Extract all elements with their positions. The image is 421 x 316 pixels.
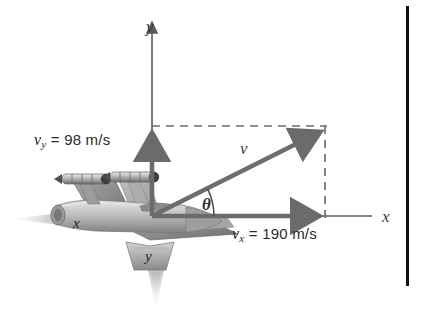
vy-subscript: y bbox=[41, 138, 46, 150]
physics-vector-diagram: y x v θ vy = 98 m/s vx = 190 m/s x y bbox=[0, 0, 421, 316]
aircraft-fuselage-letter: x bbox=[73, 216, 80, 231]
vy-value: 98 bbox=[64, 131, 81, 148]
resultant-vector-arrow bbox=[152, 132, 320, 216]
vx-value: 190 bbox=[262, 225, 288, 242]
vy-component-label: vy = 98 m/s bbox=[34, 132, 110, 150]
aircraft-tailfin-letter: y bbox=[145, 249, 152, 264]
page-border-rule bbox=[406, 6, 409, 286]
vx-subscript: x bbox=[239, 232, 244, 244]
y-axis-label: y bbox=[146, 18, 154, 35]
resultant-vector-label: v bbox=[240, 140, 248, 157]
vy-units: m/s bbox=[86, 131, 111, 148]
x-axis-label: x bbox=[382, 208, 390, 225]
vector-overlay-layer bbox=[0, 0, 421, 316]
vx-units: m/s bbox=[292, 225, 317, 242]
vx-equals: = bbox=[249, 225, 258, 242]
vx-component-label: vx = 190 m/s bbox=[232, 226, 317, 244]
theta-angle-label: θ bbox=[202, 196, 211, 213]
vy-equals: = bbox=[51, 131, 60, 148]
